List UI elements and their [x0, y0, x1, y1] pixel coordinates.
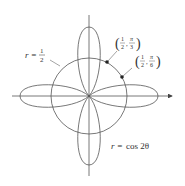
svg-text:3: 3 [130, 44, 133, 50]
label-point-pi-3: ( 1 2 , π 3 ) [115, 36, 141, 52]
svg-text:(: ( [115, 36, 120, 52]
svg-text:π: π [130, 36, 134, 42]
label-circle: r = 1 2 [25, 47, 45, 64]
svg-text:): ) [136, 36, 141, 52]
svg-text:6: 6 [150, 62, 153, 68]
svg-text:r =: r = [111, 141, 123, 151]
svg-text:1: 1 [141, 54, 144, 60]
svg-text:π: π [150, 54, 154, 60]
label-rose: r = cos 2θ [111, 141, 149, 151]
svg-text:2: 2 [40, 56, 44, 64]
label-point-pi-6: ( 1 2 , π 6 ) [135, 54, 161, 70]
svg-text:2: 2 [121, 44, 124, 50]
polar-diagram: r = 1 2 ( 1 2 , π 3 ) ( 1 2 , π 6 ) r = … [0, 0, 185, 186]
svg-text:): ) [156, 54, 161, 70]
svg-text:r =: r = [25, 50, 37, 60]
svg-text:(: ( [135, 54, 140, 70]
svg-text:,: , [126, 40, 128, 48]
svg-text:1: 1 [40, 47, 44, 55]
svg-text:2: 2 [141, 62, 144, 68]
svg-text:,: , [146, 58, 148, 66]
pointer-circle [50, 60, 60, 66]
svg-text:1: 1 [121, 36, 124, 42]
pointer-pi-6 [123, 68, 132, 76]
svg-text:cos 2θ: cos 2θ [126, 141, 149, 151]
pointer-pi-3 [108, 51, 117, 61]
